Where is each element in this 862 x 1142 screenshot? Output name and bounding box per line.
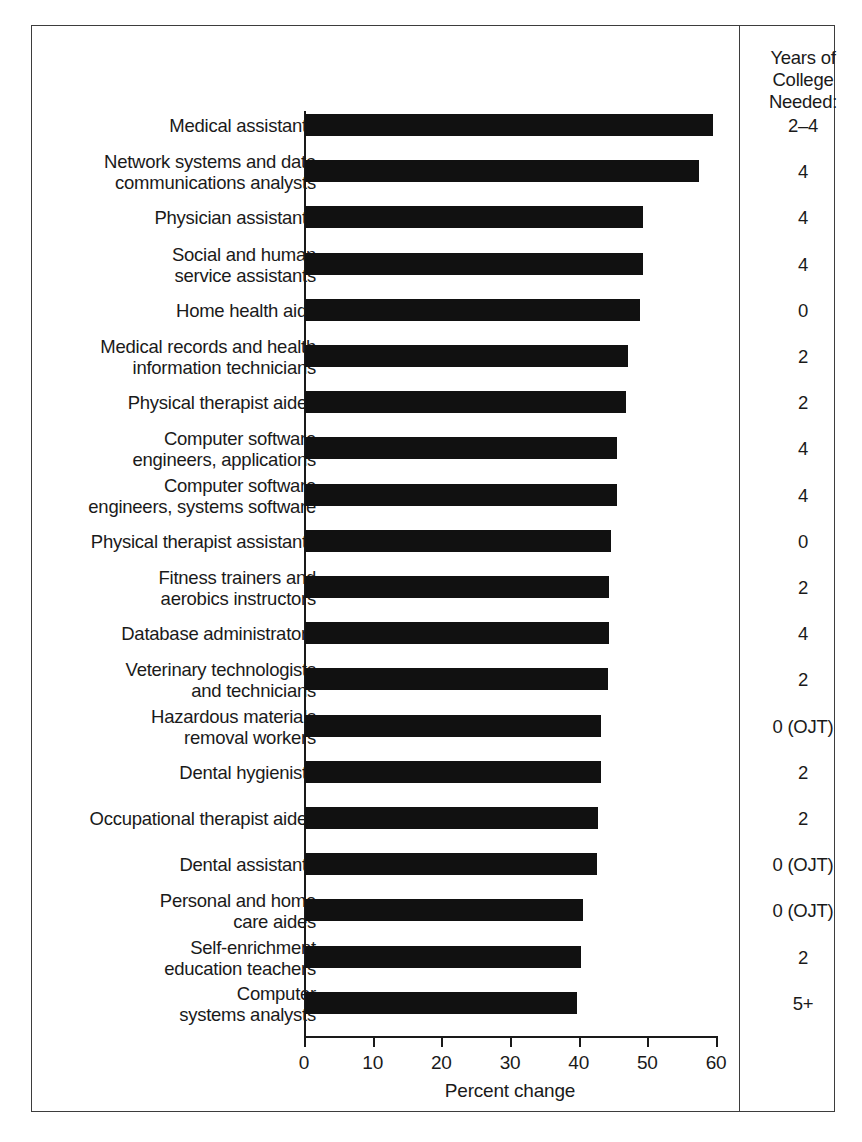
bar bbox=[305, 576, 609, 598]
bar-row: Fitness trainers and aerobics instructor… bbox=[32, 576, 739, 598]
x-tick-20 bbox=[441, 1036, 443, 1047]
bar-row: Dental assistants bbox=[32, 853, 739, 875]
years-of-college-value: 5+ bbox=[739, 993, 862, 1015]
bar bbox=[305, 899, 583, 921]
bar-row: Home health aids bbox=[32, 299, 739, 321]
years-of-college-value: 4 bbox=[739, 254, 862, 276]
bar bbox=[305, 715, 601, 737]
category-label: Social and human service assistants bbox=[66, 244, 316, 286]
years-of-college-value: 4 bbox=[739, 623, 862, 645]
bar-row: Computer software engineers, application… bbox=[32, 437, 739, 459]
x-tick-40 bbox=[579, 1036, 581, 1047]
bar bbox=[305, 484, 617, 506]
bar bbox=[305, 253, 643, 275]
x-tick-label-50: 50 bbox=[637, 1052, 658, 1074]
years-of-college-value: 4 bbox=[739, 438, 862, 460]
x-tick-label-20: 20 bbox=[431, 1052, 452, 1074]
category-label: Occupational therapist aides bbox=[66, 808, 316, 829]
years-of-college-value: 0 bbox=[739, 531, 862, 553]
category-label: Personal and home care aides bbox=[66, 890, 316, 932]
x-tick-label-40: 40 bbox=[568, 1052, 589, 1074]
bar bbox=[305, 206, 643, 228]
x-axis-title: Percent change bbox=[304, 1080, 716, 1102]
category-label: Computer software engineers, systems sof… bbox=[66, 475, 316, 517]
bar bbox=[305, 992, 577, 1014]
bar-row: Computer systems analysts bbox=[32, 992, 739, 1014]
category-label: Computer software engineers, application… bbox=[66, 428, 316, 470]
x-tick-50 bbox=[647, 1036, 649, 1047]
x-tick-30 bbox=[510, 1036, 512, 1047]
bar bbox=[305, 345, 628, 367]
category-label: Self-enrichment education teachers bbox=[66, 937, 316, 979]
bar bbox=[305, 853, 597, 875]
years-of-college-value: 2 bbox=[739, 762, 862, 784]
bar-row: Social and human service assistants bbox=[32, 253, 739, 275]
years-of-college-value: 2 bbox=[739, 808, 862, 830]
x-tick-60 bbox=[716, 1036, 718, 1047]
years-of-college-value: 4 bbox=[739, 485, 862, 507]
years-of-college-value: 4 bbox=[739, 161, 862, 183]
category-label: Fitness trainers and aerobics instructor… bbox=[66, 567, 316, 609]
years-of-college-value: 4 bbox=[739, 207, 862, 229]
bar-row: Medical records and health information t… bbox=[32, 345, 739, 367]
category-label: Dental hygienists bbox=[66, 762, 316, 783]
category-label: Veterinary technologists and technicians bbox=[66, 659, 316, 701]
category-label: Computer systems analysts bbox=[66, 983, 316, 1025]
x-tick-label-10: 10 bbox=[362, 1052, 383, 1074]
x-tick-label-30: 30 bbox=[500, 1052, 521, 1074]
years-of-college-header: Years of College Needed: bbox=[739, 47, 862, 113]
bar-row: Personal and home care aides bbox=[32, 899, 739, 921]
bar-row: Physical therapist assistants bbox=[32, 530, 739, 552]
years-of-college-value: 0 bbox=[739, 300, 862, 322]
category-label: Physical therapist aides bbox=[66, 392, 316, 413]
category-label: Physical therapist assistants bbox=[66, 531, 316, 552]
bar bbox=[305, 668, 608, 690]
bar bbox=[305, 299, 640, 321]
years-of-college-value: 2 bbox=[739, 392, 862, 414]
bar bbox=[305, 391, 626, 413]
category-label: Home health aids bbox=[66, 300, 316, 321]
x-tick-0 bbox=[304, 1036, 306, 1047]
bar-row: Dental hygienists bbox=[32, 761, 739, 783]
bar bbox=[305, 622, 609, 644]
bar-row: Network systems and data communications … bbox=[32, 160, 739, 182]
x-tick-label-0: 0 bbox=[299, 1052, 309, 1074]
years-of-college-value: 2 bbox=[739, 346, 862, 368]
category-label: Physician assistants bbox=[66, 207, 316, 228]
bar-row: Hazardous materials removal workers bbox=[32, 715, 739, 737]
category-label: Database administrators bbox=[66, 623, 316, 644]
bar-row: Database administrators bbox=[32, 622, 739, 644]
category-label: Medical assistants bbox=[66, 115, 316, 136]
bar-row: Physical therapist aides bbox=[32, 391, 739, 413]
bar-row: Medical assistants bbox=[32, 114, 739, 136]
bar-row: Physician assistants bbox=[32, 206, 739, 228]
x-tick-label-60: 60 bbox=[706, 1052, 727, 1074]
plot-area: 0102030405060 Medical assistantsNetwork … bbox=[32, 26, 739, 1111]
bar-row: Occupational therapist aides bbox=[32, 807, 739, 829]
x-tick-10 bbox=[373, 1036, 375, 1047]
bar bbox=[305, 530, 611, 552]
bar bbox=[305, 160, 699, 182]
years-of-college-value: 2 bbox=[739, 669, 862, 691]
figure-frame: 0102030405060 Medical assistantsNetwork … bbox=[31, 25, 835, 1112]
years-of-college-value: 0 (OJT) bbox=[739, 716, 862, 738]
category-label: Dental assistants bbox=[66, 854, 316, 875]
category-label: Medical records and health information t… bbox=[66, 336, 316, 378]
bar bbox=[305, 437, 617, 459]
bar-row: Veterinary technologists and technicians bbox=[32, 668, 739, 690]
years-of-college-value: 2 bbox=[739, 947, 862, 969]
years-of-college-value: 0 (OJT) bbox=[739, 854, 862, 876]
years-of-college-value: 2 bbox=[739, 577, 862, 599]
bar-row: Self-enrichment education teachers bbox=[32, 946, 739, 968]
bar bbox=[305, 761, 601, 783]
category-label: Network systems and data communications … bbox=[66, 151, 316, 193]
bar bbox=[305, 114, 713, 136]
bar bbox=[305, 946, 581, 968]
bar bbox=[305, 807, 598, 829]
category-label: Hazardous materials removal workers bbox=[66, 706, 316, 748]
bar-row: Computer software engineers, systems sof… bbox=[32, 484, 739, 506]
years-of-college-value: 0 (OJT) bbox=[739, 900, 862, 922]
years-of-college-value: 2–4 bbox=[739, 115, 862, 137]
